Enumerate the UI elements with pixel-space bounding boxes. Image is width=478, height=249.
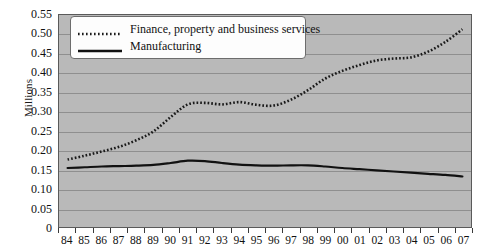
y-axis-tick-labels: 0.550.500.450.400.350.300.250.200.150.10… — [0, 0, 52, 249]
dotted-line-icon — [77, 29, 123, 39]
y-axis-tick-label: 0.05 — [8, 203, 52, 215]
chart-figure: Millions 0.550.500.450.400.350.300.250.2… — [0, 0, 478, 249]
legend-label-finance: Finance, property and business services — [130, 22, 320, 37]
series-line-manufacturing — [68, 161, 463, 177]
y-axis-tick-label: 0.45 — [8, 47, 52, 59]
y-axis-tick-label: 0.20 — [8, 144, 52, 156]
y-axis-tick-label: 0 — [8, 222, 52, 234]
solid-line-icon — [77, 46, 123, 56]
y-axis-tick-label: 0.10 — [8, 183, 52, 195]
dotted-line-key — [77, 25, 123, 35]
x-axis: 8485868788899091929394959697989900010203… — [58, 228, 472, 249]
y-axis-tick-label: 0.50 — [8, 27, 52, 39]
legend-label-manufacturing: Manufacturing — [130, 39, 201, 54]
legend-item-manufacturing: Manufacturing — [77, 38, 299, 55]
legend-item-finance: Finance, property and business services — [77, 21, 299, 38]
y-axis-tick-label: 0.25 — [8, 125, 52, 137]
solid-line-key — [77, 42, 123, 52]
y-axis-tick-label: 0.55 — [8, 8, 52, 20]
chart-legend: Finance, property and business services … — [70, 16, 306, 59]
y-axis-tick-label: 0.35 — [8, 86, 52, 98]
y-axis-tick-label: 0.15 — [8, 164, 52, 176]
y-axis-tick-label: 0.40 — [8, 66, 52, 78]
x-axis-tick-label: 07 — [451, 233, 475, 248]
y-axis-tick-label: 0.30 — [8, 105, 52, 117]
